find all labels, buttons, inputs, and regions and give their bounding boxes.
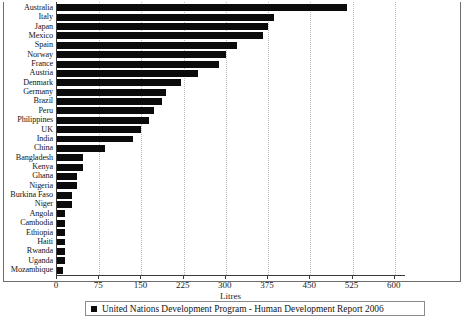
category-label: Peru [0, 106, 53, 115]
x-tick-label: 75 [94, 280, 103, 290]
bar [57, 210, 65, 217]
x-tick [309, 275, 310, 279]
bar [57, 182, 77, 189]
bar-rows [57, 0, 405, 275]
category-label: Spain [0, 40, 53, 49]
category-label: Austria [0, 68, 53, 77]
legend-swatch-icon [91, 306, 97, 312]
category-label: Angola [0, 209, 53, 218]
x-tick-label: 300 [218, 280, 232, 290]
x-tick-label: 375 [260, 280, 274, 290]
bar [57, 61, 219, 68]
category-label: Norway [0, 50, 53, 59]
category-label: Ghana [0, 171, 53, 180]
x-tick [56, 275, 57, 279]
category-label: Germany [0, 87, 53, 96]
bar [57, 42, 237, 49]
bar [57, 229, 65, 236]
category-label: Kenya [0, 162, 53, 171]
bar [57, 70, 198, 77]
bar [57, 145, 105, 152]
x-tick [183, 275, 184, 279]
bar [57, 98, 162, 105]
bar [57, 23, 268, 30]
bar [57, 4, 347, 11]
x-tick [352, 275, 353, 279]
category-label: India [0, 134, 53, 143]
category-label: Brazil [0, 96, 53, 105]
category-label: Australia [0, 3, 53, 12]
bar [57, 154, 83, 161]
x-axis-line [56, 275, 405, 276]
category-axis-labels: USAustraliaItalyJapanMexicoSpainNorwayFr… [0, 0, 53, 275]
bar [57, 239, 65, 246]
bar [57, 89, 166, 96]
bar [57, 164, 83, 171]
top-crop-edge [0, 0, 467, 2]
category-label: Ethiopia [0, 228, 53, 237]
category-label: Mexico [0, 31, 53, 40]
bar [57, 220, 65, 227]
x-tick-label: 225 [176, 280, 190, 290]
category-label: UK [0, 125, 53, 134]
category-label: Bangladesh [0, 153, 53, 162]
category-label: Japan [0, 22, 53, 31]
bar [57, 201, 72, 208]
category-label: China [0, 143, 53, 152]
bar [57, 173, 77, 180]
bar [57, 257, 65, 264]
bar [57, 192, 72, 199]
category-label: Denmark [0, 78, 53, 87]
category-label: Uganda [0, 256, 53, 265]
bar [57, 267, 63, 274]
legend-label: United Nations Development Program - Hum… [102, 304, 384, 314]
category-label: Philippines [0, 115, 53, 124]
category-label: Burkina Faso [0, 190, 53, 199]
bar [57, 107, 154, 114]
legend: United Nations Development Program - Hum… [85, 301, 425, 316]
x-tick [394, 275, 395, 279]
bar [57, 136, 133, 143]
x-tick-label: 600 [387, 280, 401, 290]
x-tick [225, 275, 226, 279]
category-label: Mozambique [0, 265, 53, 274]
plot-area [56, 0, 405, 275]
x-tick [267, 275, 268, 279]
bar [57, 79, 181, 86]
category-label: Niger [0, 199, 53, 208]
bar [57, 117, 149, 124]
x-axis-title: Litres [56, 291, 405, 301]
bar [57, 51, 226, 58]
category-label: Rwanda [0, 246, 53, 255]
chart-figure: USAustraliaItalyJapanMexicoSpainNorwayFr… [0, 0, 467, 317]
bar [57, 248, 65, 255]
category-label: France [0, 59, 53, 68]
x-tick-label: 525 [345, 280, 359, 290]
x-tick-label: 0 [54, 280, 59, 290]
x-tick [98, 275, 99, 279]
x-tick [140, 275, 141, 279]
bar [57, 126, 141, 133]
category-label: Italy [0, 12, 53, 21]
x-tick-label: 450 [303, 280, 317, 290]
category-label: Cambodia [0, 218, 53, 227]
bar [57, 32, 263, 39]
category-label: Haiti [0, 237, 53, 246]
x-tick-label: 150 [134, 280, 148, 290]
bar [57, 14, 274, 21]
category-label: Nigeria [0, 181, 53, 190]
